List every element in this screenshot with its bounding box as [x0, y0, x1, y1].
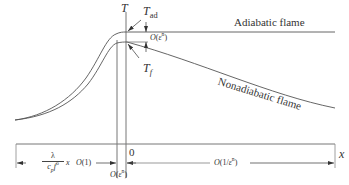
adiabatic-flame-label: Adiabatic flame — [234, 17, 305, 28]
origin-label: 0 — [129, 147, 135, 158]
postflame-order-label: O(1/εn) — [214, 159, 237, 167]
x-axis-label: x — [339, 148, 344, 160]
preheat-scale-label: λ cpfo — [42, 152, 64, 171]
preheat-order-label: O(1) — [76, 159, 91, 167]
t-f-label: Tf — [143, 62, 152, 74]
t-ad-label: Tad — [143, 5, 158, 17]
reaction-zone-order-label: O(εn) — [110, 171, 127, 179]
gap-order-label: O(εn) — [150, 34, 167, 42]
preheat-scale-var: x — [66, 159, 70, 167]
t-ad-pointer — [128, 20, 141, 31]
nonadiabatic-flame-curve — [15, 42, 335, 120]
t-f-pointer — [128, 44, 139, 58]
t-axis-label: T — [121, 2, 128, 14]
